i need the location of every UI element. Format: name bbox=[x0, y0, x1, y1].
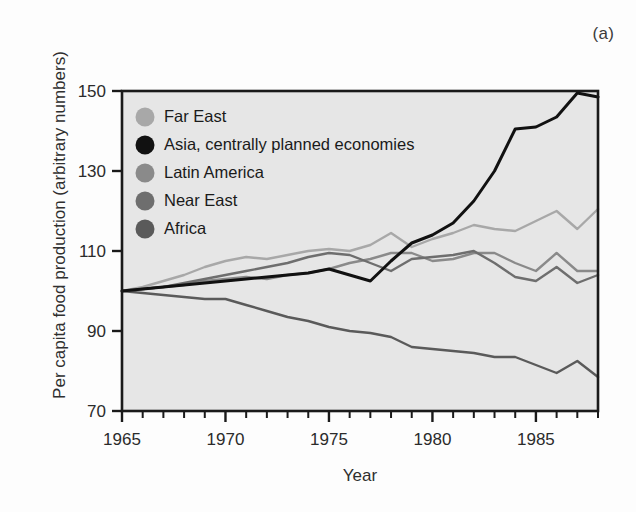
y-tick-label: 70 bbox=[87, 402, 106, 421]
x-tick-label: 1975 bbox=[310, 430, 348, 449]
line-chart-plot: 7090110130150 19651970197519801985 Far E… bbox=[0, 0, 636, 512]
x-tick-label: 1985 bbox=[517, 430, 555, 449]
legend-label: Near East bbox=[164, 191, 238, 209]
y-tick-label: 110 bbox=[79, 242, 106, 261]
y-tick-label: 150 bbox=[78, 82, 106, 101]
x-tick-label: 1980 bbox=[414, 430, 452, 449]
legend-label: Far East bbox=[164, 107, 227, 125]
legend-marker bbox=[136, 136, 155, 155]
legend-label: Africa bbox=[164, 219, 207, 237]
y-tick-label: 90 bbox=[87, 322, 106, 341]
legend-marker bbox=[136, 220, 155, 239]
y-tick-label: 130 bbox=[78, 162, 106, 181]
legend-marker bbox=[136, 108, 155, 127]
x-tick-labels-group: 19651970197519801985 bbox=[103, 430, 555, 449]
y-tick-labels-group: 7090110130150 bbox=[78, 82, 106, 421]
x-tick-label: 1970 bbox=[207, 430, 245, 449]
legend-label: Asia, centrally planned economies bbox=[164, 135, 414, 153]
legend-marker bbox=[136, 164, 155, 183]
x-tick-label: 1965 bbox=[103, 430, 141, 449]
figure-container: (a) Per capita food production (arbitrar… bbox=[0, 0, 636, 512]
legend-label: Latin America bbox=[164, 163, 265, 181]
legend-marker bbox=[136, 192, 155, 211]
